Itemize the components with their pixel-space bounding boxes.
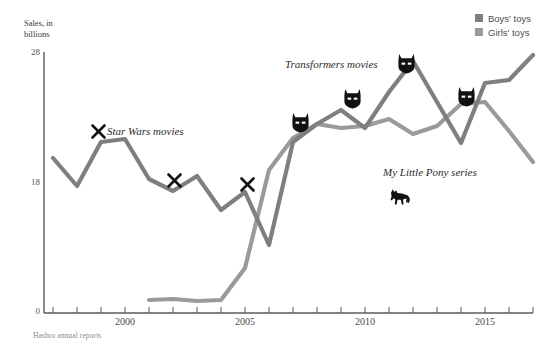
x-marker-icon <box>166 172 183 189</box>
legend-item-boys-toys: Boys' toys <box>475 12 531 24</box>
legend-swatch-girls-toys <box>475 28 483 36</box>
series-line-boys-toys <box>53 55 533 245</box>
series-line-girls-toys <box>149 102 533 301</box>
legend-label-boys-toys: Boys' toys <box>488 13 531 24</box>
transformers-head-icon <box>456 87 477 107</box>
annotation-star-wars: Star Wars movies <box>107 125 184 137</box>
transformers-head-icon <box>396 54 417 74</box>
x-marker-icon <box>90 123 107 140</box>
legend-swatch-boys-toys <box>475 14 483 22</box>
legend: Boys' toys Girls' toys <box>475 12 531 38</box>
annotation-my-little-pony: My Little Pony series <box>383 166 477 178</box>
x-axis-ticks <box>53 307 533 313</box>
plot-area <box>0 0 545 356</box>
chart-container: Sales, in billions 28 18 0 2000 2005 201… <box>0 0 545 356</box>
transformers-head-icon <box>342 89 363 109</box>
legend-label-girls-toys: Girls' toys <box>488 27 529 38</box>
x-marker-icon <box>239 176 256 193</box>
legend-item-girls-toys: Girls' toys <box>475 26 531 38</box>
source-note: Hasbro annual reports <box>33 331 101 340</box>
annotation-transformers: Transformers movies <box>285 58 378 70</box>
transformers-head-icon <box>290 113 311 133</box>
pony-icon <box>388 188 412 208</box>
